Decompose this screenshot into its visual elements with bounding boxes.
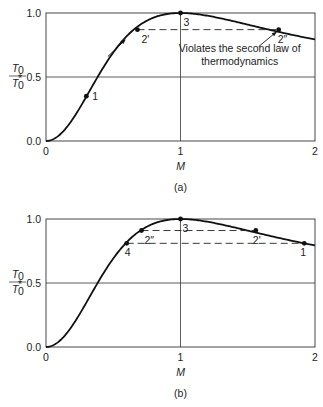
panel-caption: (b) <box>174 387 187 399</box>
svg-text:*: * <box>18 72 22 84</box>
x-tick-label: 2 <box>312 351 318 363</box>
state-point <box>178 11 183 16</box>
y-tick-label: 1.0 <box>26 213 41 225</box>
state-point <box>124 241 129 246</box>
y-tick-label: 1.0 <box>26 7 41 19</box>
chart-panel-a: 0.00.51.0012M(a)T0T0*12'32″Violates the … <box>9 7 318 193</box>
y-tick-label: 0.5 <box>26 71 41 83</box>
x-axis-label: M <box>176 366 185 378</box>
state-point-label: 1 <box>300 246 306 258</box>
state-point <box>135 27 140 32</box>
state-point <box>276 27 281 32</box>
state-point <box>139 228 144 233</box>
x-tick-label: 1 <box>178 351 184 363</box>
state-point <box>253 228 258 233</box>
y-tick-label: 0.0 <box>26 341 41 353</box>
figure: 0.00.51.0012M(a)T0T0*12'32″Violates the … <box>0 0 323 407</box>
state-point <box>302 241 307 246</box>
x-tick-label: 1 <box>178 145 184 157</box>
state-point <box>84 94 89 99</box>
annotation-text: thermodynamics <box>201 55 278 67</box>
y-tick-label: 0.0 <box>26 135 41 147</box>
x-tick-label: 0 <box>43 351 49 363</box>
chart-panel-b: 0.00.51.0012M(b)T0T0*42″32'1 <box>9 213 318 399</box>
state-point <box>178 217 183 222</box>
y-tick-label: 0.5 <box>26 277 41 289</box>
svg-text:*: * <box>18 278 22 290</box>
panel-caption: (a) <box>174 181 187 193</box>
annotation-text: Violates the second law of <box>179 42 301 54</box>
state-point-label: 2″ <box>144 234 154 246</box>
x-tick-label: 2 <box>312 145 318 157</box>
state-point-label: 1 <box>92 90 98 102</box>
x-tick-label: 0 <box>43 145 49 157</box>
state-point-label: 3 <box>184 16 190 28</box>
state-point-label: 2' <box>253 234 261 246</box>
x-axis-label: M <box>176 160 185 172</box>
y-axis-label: T0T0* <box>9 62 26 91</box>
y-axis-label: T0T0* <box>9 268 26 297</box>
state-point-label: 2' <box>141 33 149 45</box>
state-point-label: 4 <box>125 246 131 258</box>
state-point-label: 3 <box>183 222 189 234</box>
